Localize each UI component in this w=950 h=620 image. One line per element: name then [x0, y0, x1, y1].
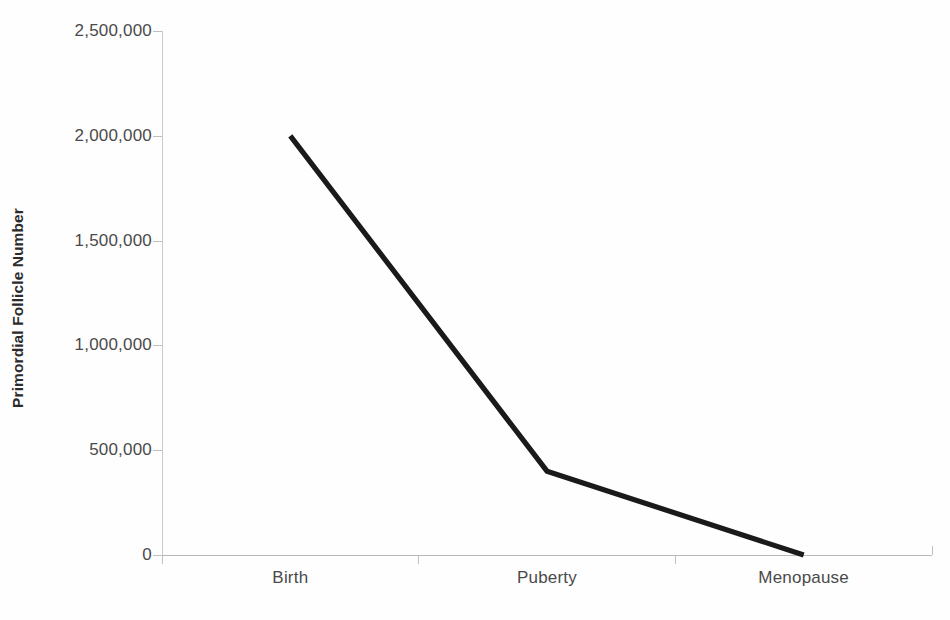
series-line-primordial-follicle-number [290, 136, 803, 555]
line-chart: Primordial Follicle Number 2,500,000 2,0… [0, 0, 950, 620]
plot-area [0, 0, 950, 620]
